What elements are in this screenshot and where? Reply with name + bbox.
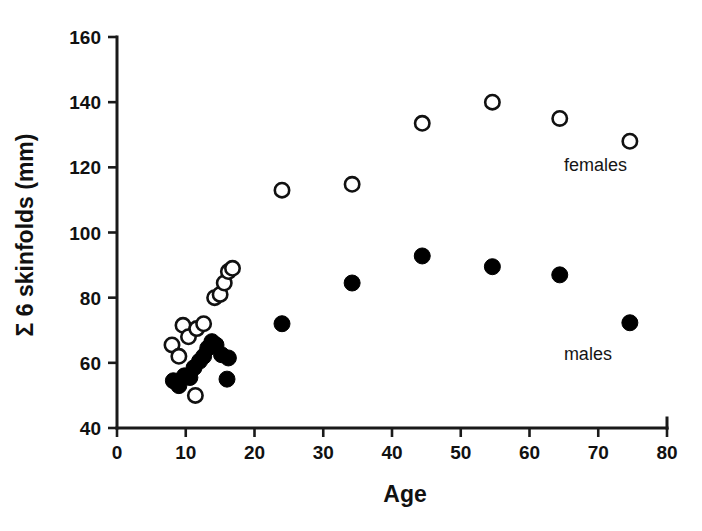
x-tick-label-60: 60 [519, 442, 540, 463]
y-tick-label-100: 100 [69, 223, 101, 244]
y-tick-label-60: 60 [80, 353, 101, 374]
point-females [188, 388, 202, 402]
point-females [275, 183, 289, 197]
x-tick-label-30: 30 [313, 442, 334, 463]
y-tick-label-160: 160 [69, 27, 101, 48]
x-tick-label-70: 70 [588, 442, 609, 463]
point-females [172, 349, 186, 363]
point-males [414, 248, 430, 264]
x-tick-label-50: 50 [450, 442, 471, 463]
x-tick-label-0: 0 [112, 442, 123, 463]
x-tick-label-40: 40 [381, 442, 402, 463]
point-females [623, 134, 637, 148]
scatter-plot-figure: 40608010012014016001020304050607080 fema… [0, 0, 702, 531]
annotation-males: males [564, 344, 612, 364]
point-females [225, 261, 239, 275]
point-males [274, 316, 290, 332]
x-tick-label-80: 80 [656, 442, 677, 463]
y-tick-label-80: 80 [80, 288, 101, 309]
y-tick-label-40: 40 [80, 418, 101, 439]
point-females [345, 177, 359, 191]
point-females [485, 95, 499, 109]
point-males [552, 267, 568, 283]
point-males [622, 315, 638, 331]
y-tick-label-120: 120 [69, 157, 101, 178]
point-males [484, 259, 500, 275]
point-females [196, 317, 210, 331]
point-females [553, 111, 567, 125]
chart-canvas: 40608010012014016001020304050607080 fema… [0, 0, 702, 531]
point-males [220, 350, 236, 366]
series-annotations: femalesmales [564, 155, 627, 364]
y-axis-title: Σ 6 skinfolds (mm) [12, 134, 38, 337]
x-axis-title: Age [383, 481, 426, 507]
point-males [219, 371, 235, 387]
x-tick-label-10: 10 [175, 442, 196, 463]
x-tick-label-20: 20 [244, 442, 265, 463]
point-females [415, 116, 429, 130]
axis-tick-labels: 40608010012014016001020304050607080 [69, 27, 677, 463]
annotation-females: females [564, 155, 627, 175]
point-males [344, 275, 360, 291]
y-tick-label-140: 140 [69, 92, 101, 113]
